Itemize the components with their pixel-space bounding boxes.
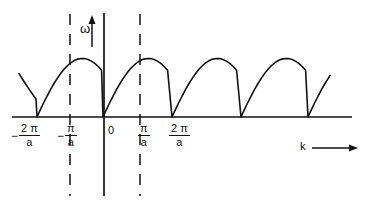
tick-numerator: π [138, 123, 150, 136]
tick-denominator: a [169, 136, 190, 148]
tick-denominator: a [65, 136, 77, 148]
plot-canvas [0, 0, 370, 222]
tick-fraction: π a [65, 123, 77, 148]
dispersion-curve [19, 59, 330, 118]
tick-numerator: 2 π [19, 123, 40, 136]
tick-numerator: 2 π [169, 123, 190, 136]
tick-sign: − [57, 130, 64, 142]
tick-sign: − [11, 130, 18, 142]
k-axis-arrow-icon [312, 145, 358, 152]
x-tick-label-minus-two-pi-over-a: − 2 π a [11, 123, 40, 148]
x-tick-label-two-pi-over-a: 2 π a [168, 123, 190, 148]
origin-label: 0 [108, 125, 114, 136]
tick-fraction: 2 π a [19, 123, 40, 148]
x-axis-label: k [300, 141, 306, 152]
tick-denominator: a [138, 136, 150, 148]
tick-numerator: π [65, 123, 77, 136]
x-tick-label-pi-over-a: π a [137, 123, 150, 148]
tick-fraction: π a [138, 123, 150, 148]
dispersion-relation-figure: ω 0 k − 2 π a − π a π a 2 π a [0, 0, 370, 222]
y-axis-label: ω [80, 22, 90, 35]
tick-fraction: 2 π a [169, 123, 190, 148]
tick-denominator: a [19, 136, 40, 148]
x-tick-label-minus-pi-over-a: − π a [57, 123, 77, 148]
